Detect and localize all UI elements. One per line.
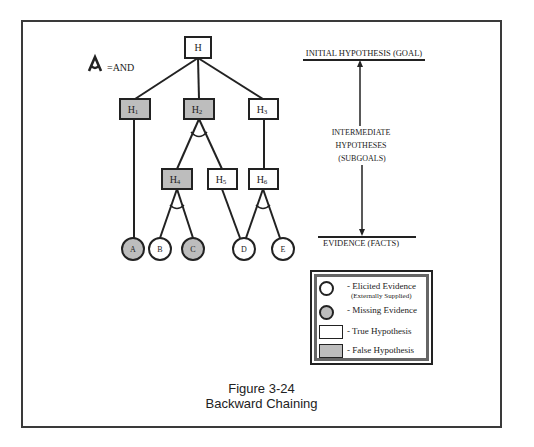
and-legend: =AND [89, 57, 134, 73]
chaining-scale: INITIAL HYPOTHESIS (GOAL) INTERMEDIATE H… [303, 48, 425, 248]
node-H[interactable]: H [185, 37, 211, 58]
node-H3[interactable]: H3 [249, 99, 278, 119]
and-label: =AND [107, 62, 134, 73]
figure-title: Backward Chaining [21, 396, 502, 411]
and-arc-icon [89, 57, 101, 71]
evidence-A[interactable]: A [122, 238, 144, 260]
node-H6[interactable]: H6 [249, 169, 278, 189]
arrow-down-icon [359, 229, 365, 236]
evidence-E[interactable]: E [272, 238, 294, 260]
svg-text:B: B [157, 245, 162, 254]
evidence-label: EVIDENCE (FACTS) [323, 238, 399, 248]
evidence-C[interactable]: C [182, 238, 204, 260]
legend-box: - Elicited Evidence (Externally Supplied… [310, 270, 433, 365]
figure-caption: Figure 3-24 Backward Chaining [21, 381, 502, 411]
figure-number: Figure 3-24 [21, 381, 502, 396]
backward-chaining-diagram: =AND H H1 H2 [0, 0, 534, 447]
goal-label: INITIAL HYPOTHESIS (GOAL) [306, 48, 422, 58]
white-circle-icon [319, 281, 334, 296]
gray-circle-icon [319, 305, 334, 320]
node-H2[interactable]: H2 [184, 99, 214, 119]
svg-text:D: D [241, 245, 247, 254]
node-H4[interactable]: H4 [162, 169, 192, 189]
tree-edges [134, 58, 280, 238]
gray-rect-icon [319, 344, 343, 358]
white-rect-icon [319, 325, 343, 339]
evidence-B[interactable]: B [149, 238, 171, 260]
svg-text:H: H [194, 42, 201, 53]
svg-text:E: E [281, 245, 286, 254]
svg-text:INTERMEDIATE HYPOTHESES: INTERMEDIATE HYPOTHESES (SUBGOALS) [332, 128, 393, 163]
svg-text:A: A [130, 245, 136, 254]
node-H5[interactable]: H5 [208, 169, 237, 189]
svg-text:C: C [190, 245, 195, 254]
evidence-D[interactable]: D [233, 238, 255, 260]
node-H1[interactable]: H1 [120, 99, 150, 119]
arrow-up-icon [357, 60, 363, 67]
